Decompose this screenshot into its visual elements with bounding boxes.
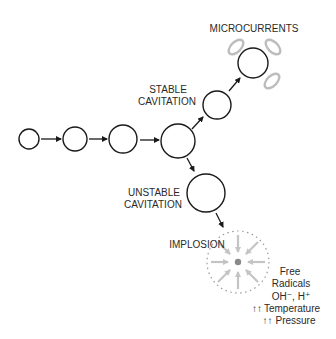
pressure-up-arrows-icon: ↑↑: [262, 315, 272, 326]
implosion-effects: Free Radicals OH⁻, H⁺ ↑↑Temperature ↑↑Pr…: [252, 266, 321, 326]
microcurrent-bubble: [238, 48, 268, 78]
bubble-2: [63, 127, 87, 151]
stable-bubble: [203, 91, 231, 119]
microcurrents-label: MICROCURRENTS: [210, 23, 299, 34]
unstable-label-line2: CAVITATION: [124, 199, 182, 210]
temperature-up-arrows-icon: ↑↑: [252, 303, 262, 314]
bubble-3: [109, 125, 137, 153]
unstable-label-line1: UNSTABLE: [128, 187, 180, 198]
stable-cavitation-branch: STABLE CAVITATION MICROCURRENTS: [138, 23, 299, 129]
implosion-label: IMPLOSION: [169, 239, 225, 250]
microcurrent-ring-icon: [263, 37, 283, 57]
implosion-core: [235, 259, 241, 265]
implosion-zone: IMPLOSION: [169, 231, 269, 293]
pressure-label: Pressure: [275, 315, 315, 326]
bubble-1: [19, 129, 39, 149]
arrow-to-unstable: [187, 158, 194, 171]
bubble-4: [161, 124, 195, 158]
unstable-bubble: [187, 174, 225, 212]
temperature-label: Temperature: [264, 303, 321, 314]
temperature-line: ↑↑Temperature: [252, 303, 321, 314]
cavitation-diagram: STABLE CAVITATION MICROCURRENTS UNSTABLE…: [0, 0, 336, 339]
effects-free: Free: [280, 266, 301, 277]
effects-ions: OH⁻, H⁺: [272, 291, 310, 302]
stable-label-line2: CAVITATION: [138, 96, 196, 107]
pressure-line: ↑↑Pressure: [262, 315, 315, 326]
microcurrent-ring-icon: [262, 71, 282, 91]
effects-radicals: Radicals: [272, 278, 310, 289]
arrow-to-implosion: [216, 213, 223, 227]
arrow-to-stable: [192, 117, 203, 129]
bubble-growth-sequence: [19, 124, 195, 158]
unstable-cavitation-branch: UNSTABLE CAVITATION: [124, 158, 225, 227]
stable-label-line1: STABLE: [149, 84, 187, 95]
arrow-to-microcurrents: [229, 78, 240, 91]
